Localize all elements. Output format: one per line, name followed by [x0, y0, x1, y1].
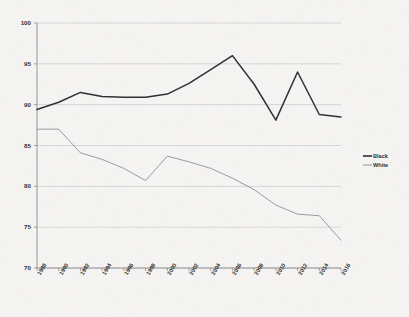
y-tick-label: 70 — [9, 264, 31, 271]
gridlines — [37, 23, 341, 268]
data-series-group — [37, 56, 341, 241]
y-tick-label: 75 — [9, 223, 31, 230]
y-tick-label: 95 — [9, 60, 31, 67]
y-tick-label: 80 — [9, 182, 31, 189]
y-tick-label: 90 — [9, 101, 31, 108]
y-tick-label: 85 — [9, 142, 31, 149]
legend-swatches — [363, 156, 372, 165]
legend-item-black[interactable]: Black — [373, 153, 388, 159]
line-chart: 707580859095100 198819901992199419961998… — [0, 0, 409, 317]
y-tick-label: 100 — [9, 19, 31, 26]
legend-item-white[interactable]: White — [373, 162, 388, 168]
